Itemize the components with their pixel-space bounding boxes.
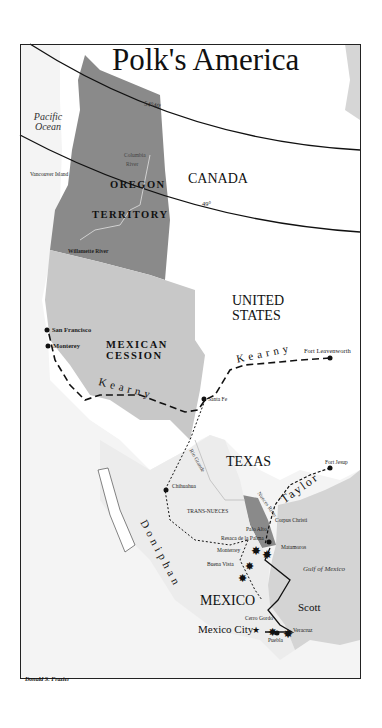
cession-label: CESSION — [106, 351, 163, 362]
map-title: Polk's America — [112, 44, 299, 75]
monterey-ca-label: Monterey — [53, 343, 80, 350]
puebla-label: Puebla — [268, 638, 283, 644]
veracruz-label: Veracruz — [293, 628, 313, 634]
chihuahua-label: Chihuahua — [172, 484, 196, 490]
resaca-label: Resaca de la Palma — [221, 536, 264, 542]
texas-label: TEXAS — [226, 455, 271, 469]
palo-alto-label: Palo Alto — [246, 527, 267, 533]
territory-label: TERRITORY — [92, 210, 169, 221]
fort-leavenworth-label: Fort Leavenworth — [304, 348, 351, 355]
corpus-christi-label: Corpus Christi — [275, 518, 307, 524]
trans-nueces-label: TRANS-NUECES — [187, 509, 228, 515]
cerro-gordo-label: Cerro Gordo — [245, 616, 273, 622]
united-label: UNITED — [232, 294, 284, 308]
oregon-label: OREGON — [110, 180, 166, 191]
willamette-river-label: Willamette River — [68, 249, 108, 255]
mexican-label: MEXICAN — [106, 340, 168, 351]
map-border — [20, 44, 361, 679]
buena-vista-label: Buena Vista — [207, 562, 234, 568]
pacific-ocean-label: Pacific Ocean — [28, 112, 68, 132]
canada-label: CANADA — [188, 172, 248, 186]
columbia-river-label-2: River — [126, 162, 138, 168]
santa-fe-label: Santa Fe — [208, 397, 227, 403]
map-credit: Donald S. Frazier — [25, 676, 70, 682]
mexico-label: MEXICO — [200, 594, 255, 608]
latitude-49-label: 49° — [202, 201, 211, 208]
scott-label: Scott — [298, 602, 321, 613]
states-label: STATES — [232, 309, 281, 323]
vancouver-island-label: Vancouver Island — [30, 172, 68, 178]
san-francisco-label: San Francisco — [52, 327, 91, 334]
fort-jesup-label: Fort Jesup — [325, 460, 348, 466]
columbia-river-label: Columbia — [124, 153, 146, 159]
gulf-of-mexico-label: Gulf of Mexico — [303, 566, 345, 573]
mexico-city-label: Mexico City — [198, 624, 253, 635]
matamoros-label: Matamoros — [281, 545, 306, 551]
monterrey-label: Monterrey — [217, 548, 240, 554]
